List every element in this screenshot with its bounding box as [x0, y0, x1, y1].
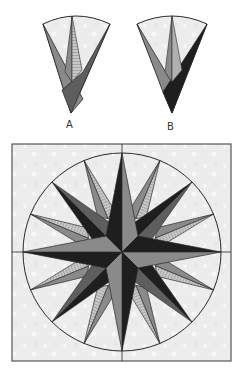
wedge-a: A	[43, 16, 110, 130]
wedge-b-label: B	[167, 121, 174, 132]
quilt-diagram: A B	[0, 0, 237, 370]
compass-block	[12, 144, 231, 361]
wedge-a-label: A	[66, 119, 73, 130]
wedge-b: B	[137, 16, 207, 132]
compass-star	[23, 153, 221, 351]
